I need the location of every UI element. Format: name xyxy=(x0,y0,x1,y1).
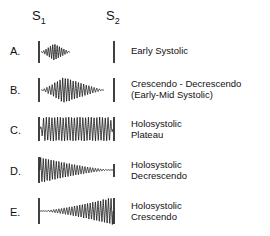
waveform-trace-b xyxy=(41,78,104,102)
s2-base: S xyxy=(106,8,115,23)
desc-b-line-1: Crescendo - Decrescendo xyxy=(131,78,241,89)
desc-c-line-2: Plateau xyxy=(131,129,182,140)
s1-base: S xyxy=(32,8,41,23)
waveform-trace-c xyxy=(40,117,113,141)
waveform-trace-e xyxy=(40,198,113,224)
row-letter-e: E. xyxy=(10,206,20,218)
waveform-trace-a xyxy=(41,44,70,60)
row-description-a: Early Systolic xyxy=(131,45,188,56)
row-description-e: Holosystolic Crescendo xyxy=(131,200,182,222)
s2-subscript: 2 xyxy=(115,16,120,26)
murmur-configuration-figure: S1 S2 A. B. C. D. E. Early Systolic Cres… xyxy=(0,0,270,236)
row-letter-d: D. xyxy=(10,165,21,177)
row-letter-b: B. xyxy=(10,84,20,96)
desc-b-line-2: (Early-Mid Systolic) xyxy=(131,89,241,100)
desc-c-line-1: Holosystolic xyxy=(131,118,182,129)
row-letter-a: A. xyxy=(10,45,20,57)
desc-e-line-2: Crescendo xyxy=(131,211,182,222)
waveform-trace-d xyxy=(40,157,113,181)
s1-subscript: 1 xyxy=(41,16,46,26)
desc-a-line-1: Early Systolic xyxy=(131,45,188,56)
desc-d-line-2: Decrescendo xyxy=(131,170,187,181)
s2-header-label: S2 xyxy=(106,8,120,23)
row-letter-c: C. xyxy=(10,124,21,136)
row-description-b: Crescendo - Decrescendo (Early-Mid Systo… xyxy=(131,78,241,100)
row-description-c: Holosystolic Plateau xyxy=(131,118,182,140)
row-description-d: Holosystolic Decrescendo xyxy=(131,159,187,181)
desc-d-line-1: Holosystolic xyxy=(131,159,187,170)
s1-header-label: S1 xyxy=(32,8,46,23)
desc-e-line-1: Holosystolic xyxy=(131,200,182,211)
